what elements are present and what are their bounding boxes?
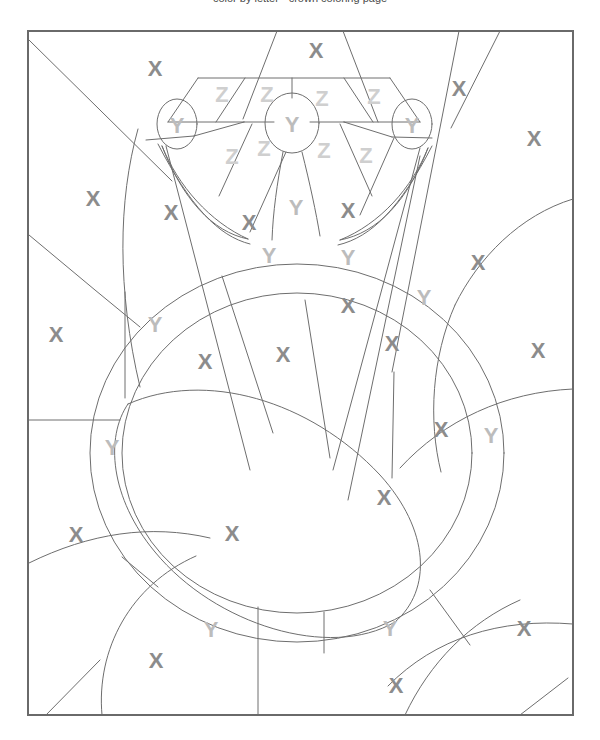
bg-arc-bottom-right bbox=[388, 623, 573, 686]
color-key-letter-x: X bbox=[148, 56, 163, 81]
color-key-letter-x: X bbox=[276, 342, 291, 367]
color-key-letter-x: X bbox=[527, 126, 542, 151]
color-key-letter-y: Y bbox=[289, 195, 304, 220]
color-key-letter-y: Y bbox=[170, 113, 185, 138]
ring-spoke-c bbox=[392, 372, 394, 478]
crown-right-petal-under bbox=[338, 146, 432, 245]
color-key-letter-z: Z bbox=[225, 144, 238, 169]
color-key-letter-y: Y bbox=[484, 423, 499, 448]
line-art-group bbox=[29, 31, 573, 715]
color-key-letter-y: Y bbox=[383, 616, 398, 641]
coloring-page-root: color by letter · crown coloring page bbox=[0, 0, 600, 740]
letters-layer: XXXXXXXXXXXXXXXXXXXXXXYYYYYYYYYYYYZZZZZZ… bbox=[49, 38, 546, 698]
color-key-letter-x: X bbox=[531, 338, 546, 363]
crown-coloring-artwork: XXXXXXXXXXXXXXXXXXXXXXYYYYYYYYYYYYZZZZZZ… bbox=[0, 0, 600, 740]
color-key-letter-z: Z bbox=[257, 136, 270, 161]
color-key-letter-z: Z bbox=[359, 143, 372, 168]
color-key-letter-x: X bbox=[341, 293, 356, 318]
color-key-letter-x: X bbox=[434, 417, 449, 442]
color-key-letter-x: X bbox=[385, 331, 400, 356]
core-oval bbox=[115, 390, 421, 637]
color-key-letter-z: Z bbox=[215, 82, 228, 107]
color-key-letter-x: X bbox=[225, 521, 240, 546]
color-key-letter-x: X bbox=[517, 616, 532, 641]
color-key-letter-y: Y bbox=[105, 435, 120, 460]
color-key-letter-x: X bbox=[377, 485, 392, 510]
color-key-letter-z: Z bbox=[315, 86, 328, 111]
color-key-letter-y: Y bbox=[417, 285, 432, 310]
color-key-letter-x: X bbox=[149, 648, 164, 673]
color-key-letter-x: X bbox=[471, 250, 486, 275]
crown-lower-right-top bbox=[344, 122, 392, 137]
bg-arc-bottom-left-2 bbox=[29, 532, 210, 563]
color-key-letter-x: X bbox=[86, 186, 101, 211]
color-key-letter-y: Y bbox=[262, 243, 277, 268]
crown-lower-left-top bbox=[194, 122, 244, 136]
bg-line-bottom-right-diag bbox=[520, 678, 568, 715]
color-key-letter-y: Y bbox=[204, 617, 219, 642]
color-key-letter-x: X bbox=[309, 38, 324, 63]
crown-center-stem-left bbox=[272, 152, 283, 240]
artwork-canvas: XXXXXXXXXXXXXXXXXXXXXXYYYYYYYYYYYYZZZZZZ… bbox=[0, 0, 600, 740]
color-key-letter-x: X bbox=[242, 210, 257, 235]
color-key-letter-z: Z bbox=[367, 84, 380, 109]
crown-leg-left bbox=[166, 146, 250, 470]
color-key-letter-x: X bbox=[452, 76, 467, 101]
color-key-letter-x: X bbox=[69, 522, 84, 547]
crown-center-stem-right bbox=[302, 152, 320, 236]
bg-line-bottom-left-diag bbox=[46, 660, 100, 715]
ring-spoke-e bbox=[122, 557, 158, 587]
color-key-letter-y: Y bbox=[405, 113, 420, 138]
color-key-letter-y: Y bbox=[148, 312, 163, 337]
color-key-letter-x: X bbox=[389, 673, 404, 698]
ring-spoke-b bbox=[305, 300, 330, 458]
color-key-letter-x: X bbox=[198, 349, 213, 374]
bg-arc-right-inner bbox=[434, 305, 455, 472]
color-key-letter-z: Z bbox=[317, 138, 330, 163]
color-key-letter-y: Y bbox=[285, 112, 300, 137]
color-key-letter-y: Y bbox=[341, 245, 356, 270]
color-key-letter-x: X bbox=[164, 200, 179, 225]
bg-line-right-mid-diag bbox=[348, 156, 420, 500]
color-key-letter-x: X bbox=[341, 198, 356, 223]
color-key-letter-x: X bbox=[49, 322, 64, 347]
ring-inner-circle bbox=[122, 293, 472, 613]
color-key-letter-z: Z bbox=[260, 82, 273, 107]
